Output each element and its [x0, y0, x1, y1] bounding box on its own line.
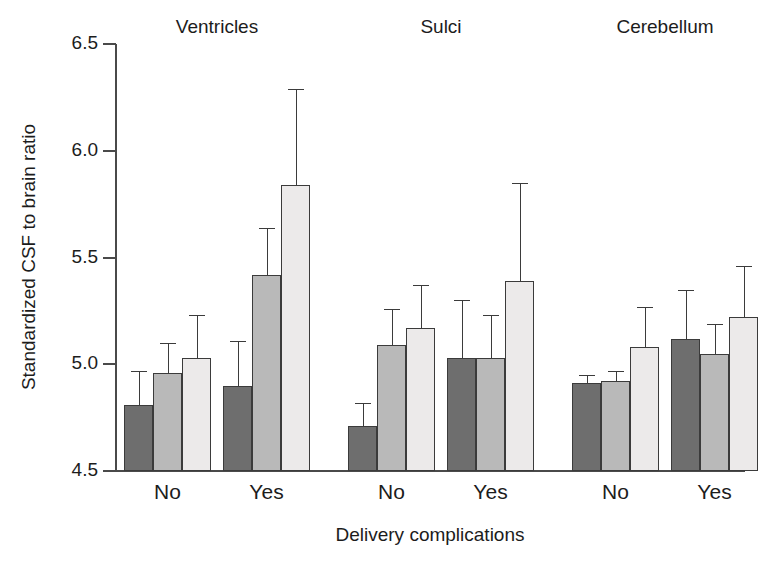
x-axis-title: Delivery complications: [115, 524, 745, 546]
error-bar-stem: [520, 183, 521, 281]
y-axis-tick-label: 4.5: [38, 460, 98, 479]
bar: [281, 185, 310, 471]
error-bar-cap: [637, 307, 653, 308]
error-bar-stem: [715, 324, 716, 354]
error-bar-stem: [168, 343, 169, 373]
bar: [223, 386, 252, 471]
y-axis-tick-label: 6.5: [38, 33, 98, 52]
y-axis-tick-label: 5.0: [38, 353, 98, 372]
error-bar-stem: [462, 300, 463, 358]
bar: [729, 317, 758, 471]
x-axis-tick-label-yes-3: Yes: [473, 480, 507, 504]
bar: [348, 426, 377, 471]
error-bar-stem: [587, 375, 588, 384]
error-bar-stem: [139, 371, 140, 405]
error-bar-stem: [645, 307, 646, 348]
error-bar-stem: [421, 285, 422, 328]
error-bar-stem: [686, 290, 687, 339]
bar: [377, 345, 406, 471]
bar: [700, 354, 729, 471]
error-bar-stem: [744, 266, 745, 317]
error-bar-cap: [355, 403, 371, 404]
error-bar-cap: [288, 89, 304, 90]
panel-title-sulci: Sulci: [420, 16, 461, 38]
panel-title-cerebellum: Cerebellum: [616, 16, 713, 38]
error-bar-stem: [616, 371, 617, 382]
bar: [406, 328, 435, 471]
x-axis-tick-label-no-2: No: [378, 480, 405, 504]
x-axis-tick-label-no-0: No: [154, 480, 181, 504]
x-axis-tick-label-yes-1: Yes: [249, 480, 283, 504]
error-bar-cap: [678, 290, 694, 291]
error-bar-cap: [259, 228, 275, 229]
error-bar-cap: [736, 266, 752, 267]
y-axis-tick-label: 5.5: [38, 247, 98, 266]
bar: [124, 405, 153, 471]
error-bar-cap: [707, 324, 723, 325]
bar: [572, 383, 601, 471]
bar: [182, 358, 211, 471]
error-bar-stem: [197, 315, 198, 358]
error-bar-cap: [384, 309, 400, 310]
error-bar-cap: [512, 183, 528, 184]
x-axis-tick-label-yes-5: Yes: [697, 480, 731, 504]
chart-figure: Standardized CSF to brain ratio 4.55.05.…: [0, 0, 764, 577]
bar: [252, 275, 281, 471]
error-bar-stem: [392, 309, 393, 345]
error-bar-cap: [483, 315, 499, 316]
error-bar-cap: [579, 375, 595, 376]
error-bar-stem: [491, 315, 492, 358]
error-bar-stem: [363, 403, 364, 426]
error-bar-cap: [189, 315, 205, 316]
error-bar-cap: [160, 343, 176, 344]
error-bar-stem: [267, 228, 268, 275]
panel-title-ventricles: Ventricles: [176, 16, 258, 38]
error-bar-cap: [230, 341, 246, 342]
plot-area: [115, 44, 745, 471]
bar: [447, 358, 476, 471]
error-bar-cap: [131, 371, 147, 372]
bar: [153, 373, 182, 471]
error-bar-cap: [454, 300, 470, 301]
bar: [476, 358, 505, 471]
error-bar-cap: [608, 371, 624, 372]
x-axis-tick-label-no-4: No: [602, 480, 629, 504]
error-bar-stem: [238, 341, 239, 386]
error-bar-cap: [413, 285, 429, 286]
y-axis-tick-label: 6.0: [38, 140, 98, 159]
bar: [601, 381, 630, 471]
bar: [505, 281, 534, 471]
error-bar-stem: [296, 89, 297, 185]
bar: [630, 347, 659, 471]
bar: [671, 339, 700, 471]
